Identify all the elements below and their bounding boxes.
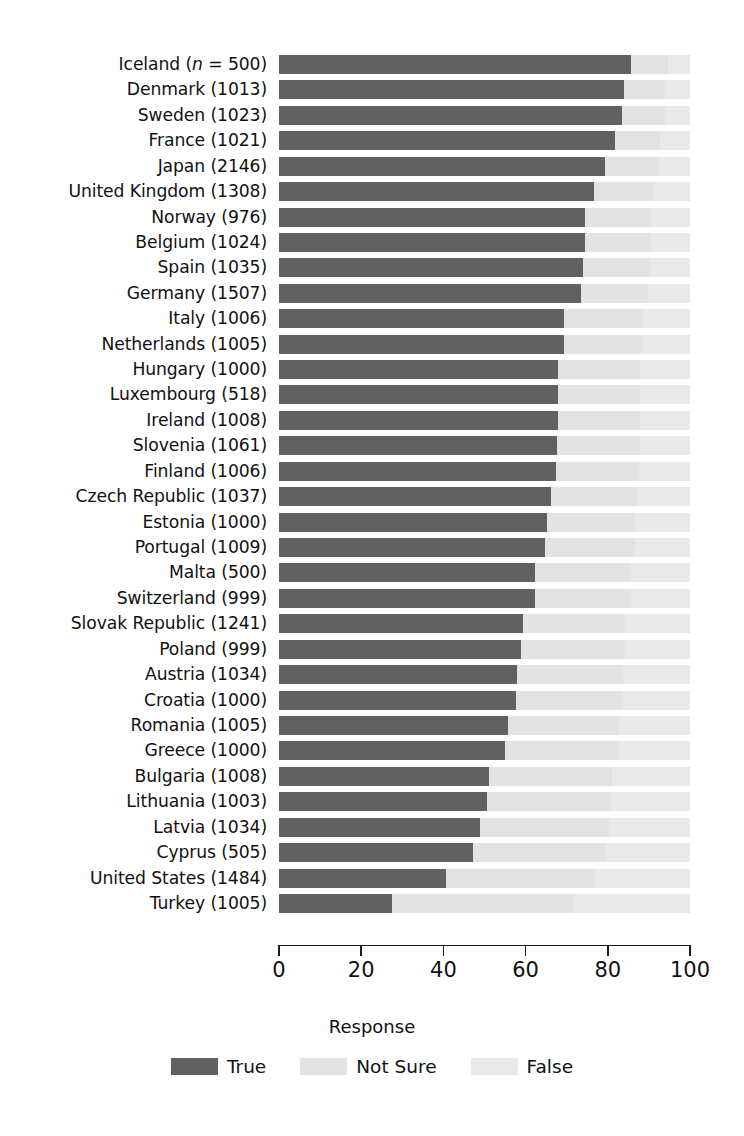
chart-row: Netherlands (1005) bbox=[0, 335, 744, 360]
x-axis-tick bbox=[525, 945, 527, 956]
chart-row: Belgium (1024) bbox=[0, 233, 744, 258]
bar-track bbox=[279, 589, 690, 608]
bar-segment-false bbox=[618, 741, 690, 760]
bar-segment-not-sure bbox=[557, 436, 640, 455]
bar-segment-not-sure bbox=[551, 487, 637, 506]
category-label: Spain (1035) bbox=[0, 258, 267, 277]
chart-row: Hungary (1000) bbox=[0, 360, 744, 385]
bar-segment-true bbox=[279, 767, 489, 786]
bar-segment-not-sure bbox=[583, 258, 650, 277]
stacked-bar-chart: Iceland (n = 500)Denmark (1013)Sweden (1… bbox=[0, 0, 744, 1136]
bar-segment-not-sure bbox=[558, 360, 640, 379]
legend-label: False bbox=[527, 1056, 573, 1077]
bar-segment-false bbox=[665, 106, 690, 125]
bar-track bbox=[279, 665, 690, 684]
legend-item[interactable]: True bbox=[171, 1056, 266, 1077]
category-label: Malta (500) bbox=[0, 563, 267, 582]
bar-track bbox=[279, 716, 690, 735]
bar-segment-false bbox=[640, 436, 690, 455]
category-label: United States (1484) bbox=[0, 869, 267, 888]
bar-track bbox=[279, 843, 690, 862]
bar-segment-true bbox=[279, 513, 547, 532]
legend-swatch-icon bbox=[471, 1058, 518, 1075]
bar-segment-true bbox=[279, 462, 556, 481]
category-label: Austria (1034) bbox=[0, 665, 267, 684]
bar-segment-not-sure bbox=[521, 640, 625, 659]
bar-track bbox=[279, 538, 690, 557]
bar-track bbox=[279, 309, 690, 328]
bar-track bbox=[279, 614, 690, 633]
bar-segment-not-sure bbox=[558, 411, 641, 430]
category-label: Bulgaria (1008) bbox=[0, 767, 267, 786]
bar-segment-true bbox=[279, 741, 505, 760]
bar-segment-false bbox=[650, 258, 690, 277]
bar-segment-not-sure bbox=[585, 233, 651, 252]
bar-segment-false bbox=[665, 80, 690, 99]
chart-row: Bulgaria (1008) bbox=[0, 767, 744, 792]
category-label: Norway (976) bbox=[0, 208, 267, 227]
bar-segment-true bbox=[279, 106, 622, 125]
category-label: Denmark (1013) bbox=[0, 80, 267, 99]
legend-item[interactable]: Not Sure bbox=[300, 1056, 436, 1077]
category-label: Slovenia (1061) bbox=[0, 436, 267, 455]
chart-row: Malta (500) bbox=[0, 563, 744, 588]
bar-segment-true bbox=[279, 157, 605, 176]
chart-row: Poland (999) bbox=[0, 640, 744, 665]
bar-segment-true bbox=[279, 131, 615, 150]
bar-segment-false bbox=[651, 208, 690, 227]
chart-row: Estonia (1000) bbox=[0, 513, 744, 538]
bar-segment-not-sure bbox=[564, 335, 643, 354]
bar-segment-true bbox=[279, 55, 631, 74]
bar-segment-not-sure bbox=[473, 843, 606, 862]
bar-segment-true bbox=[279, 360, 558, 379]
chart-row: Norway (976) bbox=[0, 208, 744, 233]
x-axis-tick-label: 40 bbox=[413, 958, 473, 982]
bar-track bbox=[279, 767, 690, 786]
bar-segment-true bbox=[279, 284, 581, 303]
bar-segment-false bbox=[668, 55, 690, 74]
bar-segment-not-sure bbox=[624, 80, 665, 99]
chart-row: Spain (1035) bbox=[0, 258, 744, 283]
bar-track bbox=[279, 792, 690, 811]
legend-item[interactable]: False bbox=[471, 1056, 573, 1077]
bar-track bbox=[279, 462, 690, 481]
category-label: Czech Republic (1037) bbox=[0, 487, 267, 506]
legend-label: True bbox=[227, 1056, 266, 1077]
bar-segment-true bbox=[279, 869, 446, 888]
category-label: Greece (1000) bbox=[0, 741, 267, 760]
bar-segment-true bbox=[279, 385, 558, 404]
category-label: United Kingdom (1308) bbox=[0, 182, 267, 201]
x-axis-tick-label: 80 bbox=[578, 958, 638, 982]
chart-row: Ireland (1008) bbox=[0, 411, 744, 436]
x-axis-tick bbox=[443, 945, 445, 956]
bar-segment-false bbox=[651, 233, 690, 252]
bar-segment-false bbox=[609, 818, 690, 837]
chart-row: Latvia (1034) bbox=[0, 818, 744, 843]
bar-segment-false bbox=[640, 360, 690, 379]
bar-segment-false bbox=[606, 843, 690, 862]
x-axis-tick-label: 100 bbox=[660, 958, 720, 982]
x-axis-tick bbox=[607, 945, 609, 956]
chart-row: France (1021) bbox=[0, 131, 744, 156]
category-label: Poland (999) bbox=[0, 640, 267, 659]
category-label: Romania (1005) bbox=[0, 716, 267, 735]
bar-segment-false bbox=[639, 462, 690, 481]
chart-row: Portugal (1009) bbox=[0, 538, 744, 563]
bar-segment-not-sure bbox=[594, 182, 654, 201]
bar-track bbox=[279, 233, 690, 252]
bar-segment-not-sure bbox=[605, 157, 658, 176]
chart-rows: Iceland (n = 500)Denmark (1013)Sweden (1… bbox=[0, 55, 744, 919]
x-axis-tick bbox=[278, 945, 280, 956]
bar-segment-false bbox=[658, 157, 690, 176]
bar-track bbox=[279, 80, 690, 99]
bar-segment-false bbox=[631, 563, 690, 582]
x-axis-tick-label: 0 bbox=[249, 958, 309, 982]
chart-row: Switzerland (999) bbox=[0, 589, 744, 614]
chart-row: Romania (1005) bbox=[0, 716, 744, 741]
chart-row: Turkey (1005) bbox=[0, 894, 744, 919]
category-label: Turkey (1005) bbox=[0, 894, 267, 913]
category-label: Switzerland (999) bbox=[0, 589, 267, 608]
bar-segment-true bbox=[279, 182, 594, 201]
category-label: Finland (1006) bbox=[0, 462, 267, 481]
bar-segment-not-sure bbox=[545, 538, 635, 557]
